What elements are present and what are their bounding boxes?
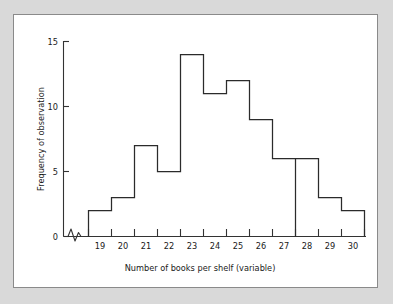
x-tick-label-19: 19 [95, 241, 105, 251]
x-tick-label-29: 29 [325, 241, 335, 251]
x-tick-label-20: 20 [118, 241, 128, 251]
y-axis-title: Frequency of observation [36, 87, 46, 191]
x-axis-group: 19 20 21 22 23 24 25 26 27 28 29 30 [64, 229, 367, 251]
y-tick-label-0: 0 [53, 232, 58, 242]
x-tick-label-25: 25 [233, 241, 243, 251]
x-axis-title: Number of books per shelf (variable) [125, 263, 276, 273]
x-tick-label-22: 22 [164, 241, 174, 251]
x-tick-label-27: 27 [279, 241, 289, 251]
histogram-outline [89, 55, 365, 237]
y-tick-label-10: 10 [48, 102, 58, 112]
x-tick-label-26: 26 [256, 241, 266, 251]
x-tick-label-23: 23 [187, 241, 197, 251]
x-tick-label-28: 28 [302, 241, 312, 251]
histogram-chart: 15 10 5 0 19 20 21 22 23 24 25 26 27 28 … [0, 0, 393, 304]
x-tick-label-24: 24 [210, 241, 220, 251]
y-axis-group: 15 10 5 0 [48, 37, 69, 242]
bars-group [89, 55, 365, 237]
y-tick-label-5: 5 [53, 167, 58, 177]
x-tick-label-21: 21 [141, 241, 151, 251]
axis-break-icon [68, 229, 81, 241]
x-tick-label-30: 30 [348, 241, 358, 251]
y-tick-label-15: 15 [48, 37, 58, 47]
